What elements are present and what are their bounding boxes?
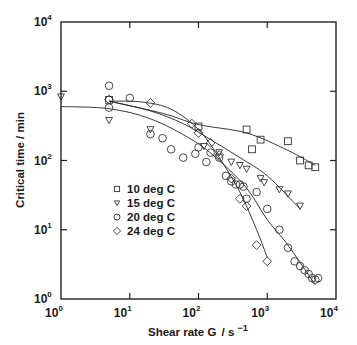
diamond-marker-icon [252, 241, 261, 250]
y-tick-label: 103 [34, 82, 52, 98]
legend-item: 20 deg C [114, 211, 175, 223]
x-axis-label-main: Shear rate G [148, 326, 216, 338]
triangle-down-marker-icon [243, 166, 250, 172]
series-15-deg-c [58, 94, 304, 209]
x-axis-ticks: 100101102103104 [45, 22, 338, 320]
legend-label: 24 deg C [127, 225, 175, 237]
triangle-down-marker-icon [228, 159, 235, 165]
y-tick-label: 104 [34, 13, 52, 29]
x-axis-label-exp: −1 [238, 323, 248, 333]
circle-marker-icon [114, 214, 120, 220]
x-tick-label: 101 [114, 304, 132, 320]
legend-label: 10 deg C [127, 183, 175, 195]
x-axis-label: Shear rate G / s −1 [148, 323, 248, 338]
circle-marker-icon [276, 226, 284, 234]
legend-label: 20 deg C [127, 211, 175, 223]
legend-item: 10 deg C [114, 183, 175, 195]
triangle-down-marker-icon [261, 180, 268, 186]
circle-marker-icon [195, 144, 203, 152]
square-marker-icon [285, 138, 292, 145]
circle-marker-icon [167, 146, 175, 154]
square-marker-icon [249, 146, 256, 153]
circle-marker-icon [105, 104, 113, 112]
fit-curve-20-deg-c [61, 107, 315, 285]
square-marker-icon [312, 164, 319, 171]
x-tick-label: 103 [251, 304, 269, 320]
legend: 10 deg C15 deg C20 deg C24 deg C [113, 183, 175, 237]
circle-marker-icon [203, 158, 211, 166]
x-axis-label-unit: / s [222, 326, 235, 338]
y-tick-label: 101 [34, 221, 52, 237]
triangle-down-marker-icon [106, 117, 113, 123]
triangle-down-marker-icon [114, 201, 119, 206]
x-tick-label: 100 [45, 304, 63, 320]
y-axis-label: Critical time / min [14, 112, 26, 208]
triangle-down-marker-icon [147, 127, 154, 133]
square-marker-icon [114, 186, 119, 191]
x-tick-label: 102 [183, 304, 201, 320]
circle-marker-icon [179, 154, 187, 162]
diamond-marker-icon [113, 227, 120, 234]
circle-marker-icon [253, 188, 261, 196]
triangle-down-marker-icon [236, 162, 243, 168]
circle-marker-icon [159, 134, 167, 142]
circle-marker-icon [126, 94, 134, 102]
legend-item: 15 deg C [114, 197, 175, 209]
x-tick-label: 104 [320, 304, 338, 320]
y-tick-label: 100 [34, 290, 52, 306]
diamond-marker-icon [263, 257, 272, 266]
legend-label: 15 deg C [127, 197, 175, 209]
triangle-down-marker-icon [257, 176, 264, 182]
fit-curves [61, 101, 315, 285]
data-points [58, 82, 322, 284]
chart-figure: 100101102103104 100101102103104 10 deg C… [0, 0, 357, 345]
y-tick-label: 102 [34, 152, 52, 168]
circle-marker-icon [314, 274, 322, 282]
circle-marker-icon [147, 130, 155, 138]
circle-marker-icon [263, 205, 271, 213]
legend-item: 24 deg C [113, 225, 175, 237]
circle-marker-icon [105, 82, 113, 90]
